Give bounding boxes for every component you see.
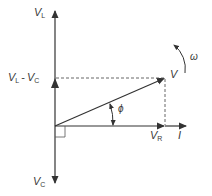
voltage-label: V [170, 69, 177, 80]
voltage-phasor [55, 79, 164, 127]
right-angle-marker [55, 126, 65, 137]
angular-velocity-label: ω [190, 52, 198, 62]
phasor-diagram-canvas [0, 0, 212, 196]
vl-minus-vc-label: VL-VC [8, 72, 39, 84]
phase-angle-label: ϕ [118, 104, 124, 114]
vl-minus-vc-arrowhead [51, 78, 59, 88]
vl-label: VL [34, 7, 45, 19]
current-label: I [178, 130, 181, 141]
vr-label: VR [150, 130, 162, 142]
phasor-diagram: VL VL-VC VC VR I V ϕ ω [0, 0, 212, 196]
phase-angle-arc [110, 104, 113, 125]
vc-label: VC [33, 176, 45, 188]
